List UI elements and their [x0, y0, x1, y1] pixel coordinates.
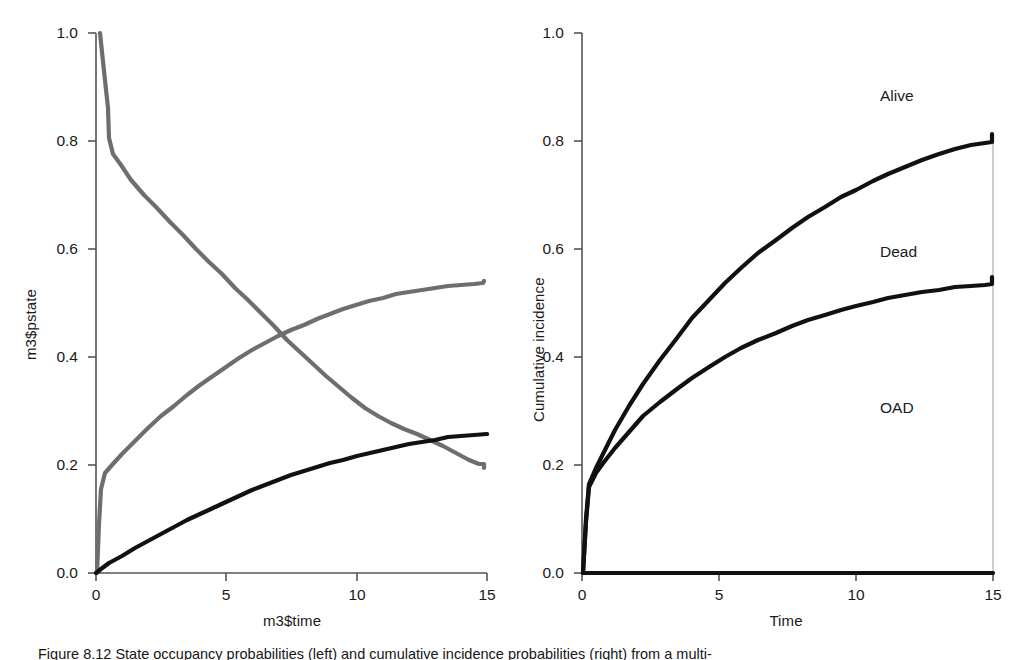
right-ytick-0.6: 0.6 — [514, 240, 564, 258]
figure-panel-pair: 1.0 0.8 0.6 0.4 0.2 0.0 0 5 10 15 m3$tim… — [0, 0, 1016, 660]
right-xtick-0: 0 — [562, 586, 602, 604]
curve-state2-increasing-gray — [97, 281, 484, 573]
left-ytick-1.0: 1.0 — [28, 24, 78, 42]
left-x-axis — [96, 573, 487, 581]
left-yaxis-title: m3$pstate — [22, 289, 39, 360]
left-plot-svg — [0, 0, 508, 640]
left-xtick-0: 0 — [76, 586, 116, 604]
chart-panel-right: 1.0 0.8 0.6 0.4 0.2 0.0 0 5 10 15 Time C… — [508, 0, 1016, 640]
chart-panel-left: 1.0 0.8 0.6 0.4 0.2 0.0 0 5 10 15 m3$tim… — [0, 0, 508, 640]
right-y-axis — [574, 33, 582, 573]
right-ytick-1.0: 1.0 — [514, 24, 564, 42]
left-ytick-0.0: 0.0 — [28, 564, 78, 582]
left-y-axis — [88, 33, 96, 573]
left-xtick-10: 10 — [337, 586, 377, 604]
right-yaxis-title: Cumulative incidence — [530, 277, 547, 422]
left-ytick-0.8: 0.8 — [28, 132, 78, 150]
figure-caption: Figure 8.12 State occupancy probabilitie… — [38, 646, 978, 660]
left-ytick-0.2: 0.2 — [28, 456, 78, 474]
right-xtick-5: 5 — [699, 586, 739, 604]
right-plot-svg — [508, 0, 1016, 640]
right-xaxis-title: Time — [686, 612, 886, 629]
curve-alive — [583, 134, 992, 573]
annotation-oad: OAD — [880, 399, 914, 417]
left-xtick-15: 15 — [467, 586, 507, 604]
curve-dead — [583, 277, 992, 573]
right-ytick-0.2: 0.2 — [514, 456, 564, 474]
left-xtick-5: 5 — [206, 586, 246, 604]
annotation-dead: Dead — [880, 243, 917, 261]
left-xaxis-title: m3$time — [192, 612, 392, 629]
left-ytick-0.6: 0.6 — [28, 240, 78, 258]
curve-state1-decreasing — [100, 33, 484, 468]
right-ytick-0.0: 0.0 — [514, 564, 564, 582]
annotation-alive: Alive — [880, 87, 914, 105]
curve-state3-increasing-black — [96, 434, 487, 573]
right-xtick-10: 10 — [836, 586, 876, 604]
right-xtick-15: 15 — [973, 586, 1013, 604]
right-ytick-0.8: 0.8 — [514, 132, 564, 150]
